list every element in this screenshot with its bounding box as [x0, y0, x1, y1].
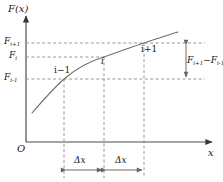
difference-term-1-subscript: i+1	[193, 60, 203, 66]
y-tick-subscript: i+1	[10, 41, 20, 47]
difference-term-2-subscript: i-1	[217, 60, 223, 66]
curve-point-label-i-plus-1: i+1	[141, 45, 157, 54]
difference-minus-sign: −	[203, 55, 211, 65]
delta-x-label-left: Δx	[74, 156, 86, 165]
x-axis-title: x	[208, 148, 214, 158]
difference-label: Fi+1−Fi-1	[187, 56, 223, 65]
curve-point-label-i-minus-1: i−1	[54, 66, 70, 75]
y-tick-subscript: i-1	[10, 77, 17, 83]
y-tick-label-i: Fi	[9, 51, 17, 60]
curve-point-label-i: i	[101, 57, 104, 66]
delta-x-label-right: Δx	[115, 156, 127, 165]
figure-canvas: F(x) x O Fi+1 Fi Fi-1 i−1 i i+1 Δx Δx Fi…	[0, 0, 223, 182]
y-tick-subscript: i	[15, 55, 17, 61]
diagram-svg	[0, 0, 223, 182]
y-tick-label-i-plus-1: Fi+1	[4, 37, 20, 46]
y-tick-label-i-minus-1: Fi-1	[4, 73, 17, 82]
origin-label: O	[17, 144, 25, 154]
y-axis-title: F(x)	[8, 4, 28, 14]
